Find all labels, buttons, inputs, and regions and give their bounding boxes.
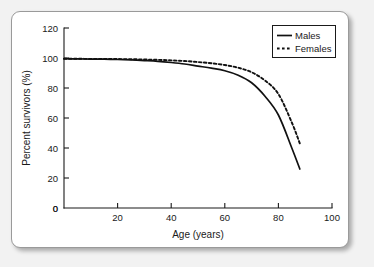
legend: Males Females [273, 26, 336, 58]
series-line-females [64, 59, 300, 144]
y-tick-label-20: 20 [47, 173, 58, 184]
series-line-males [64, 59, 300, 169]
x-ticks-group: 0 20 40 60 80 100 [53, 203, 340, 224]
y-tick-label-40: 40 [47, 143, 58, 154]
chart-canvas: 120 100 80 60 40 20 0 0 20 40 60 80 100 … [0, 0, 374, 267]
legend-label-males: Males [295, 30, 321, 41]
x-axis-title: Age (years) [172, 229, 224, 240]
x-tick-label-0: 0 [53, 203, 58, 214]
x-tick-label-80: 80 [273, 212, 284, 223]
y-tick-label-100: 100 [42, 53, 58, 64]
y-tick-label-120: 120 [42, 23, 58, 34]
legend-label-females: Females [295, 43, 332, 54]
y-ticks-group: 120 100 80 60 40 20 0 [42, 23, 69, 214]
figure-root: 120 100 80 60 40 20 0 0 20 40 60 80 100 … [0, 0, 374, 267]
series-group [64, 59, 300, 169]
y-axis-title: Percent survivors (%) [21, 70, 32, 166]
x-tick-label-100: 100 [324, 212, 340, 223]
y-tick-label-60: 60 [47, 113, 58, 124]
y-tick-label-80: 80 [47, 83, 58, 94]
x-tick-label-20: 20 [112, 212, 123, 223]
x-tick-label-40: 40 [166, 212, 177, 223]
x-tick-label-60: 60 [220, 212, 231, 223]
